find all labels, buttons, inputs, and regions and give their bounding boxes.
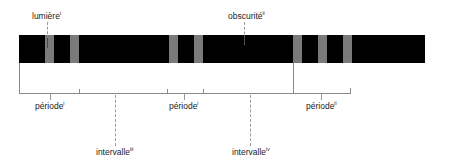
label-interval-1-text: intervalle [96,147,130,157]
label-period-1: périodei [35,100,64,111]
label-interval-2-text: intervalle [232,147,266,157]
boundary-line-left [19,63,20,94]
label-period-1-text: période [35,101,63,111]
label-period-2-sup: i [197,100,198,106]
time-axis [19,93,351,94]
boundary-line-right [293,63,294,94]
interval-leader [250,95,251,146]
label-period-1-sup: i [63,100,64,106]
axis-tick [203,89,204,94]
label-interval-1-sup: iii [130,146,133,152]
label-interval-1: intervalleiii [96,146,133,157]
label-period-3-sup: ii [334,100,336,106]
light-pulse [169,35,178,63]
label-period-2: périodei [169,100,198,111]
interval-leader [115,95,116,146]
light-pulse [194,35,203,63]
label-interval-2-sup: iv [266,146,270,152]
label-dark-sup: ii [263,10,265,16]
dark-leader-inner [244,35,245,45]
label-dark-text: obscurité [228,11,263,21]
label-period-3-text: période [306,101,334,111]
axis-tick [167,89,168,94]
label-light-text: lumière [32,11,60,21]
light-pulse [343,35,352,63]
axis-tick [79,89,80,94]
light-pulse [318,35,327,63]
axis-tick [350,88,351,94]
light-pulse [70,35,79,63]
light-pulse [293,35,302,63]
label-period-3: périodeii [306,100,337,111]
dark-bar [19,35,425,63]
label-dark: obscuritéii [228,10,265,21]
photoperiod-diagram: lumièrei obscuritéii périodei périodei p… [0,0,449,166]
label-period-2-text: période [169,101,197,111]
label-light-sup: i [60,10,61,16]
light-leader-inner [47,38,48,48]
label-light: lumièrei [32,10,61,21]
label-interval-2: intervalleiv [232,146,270,157]
